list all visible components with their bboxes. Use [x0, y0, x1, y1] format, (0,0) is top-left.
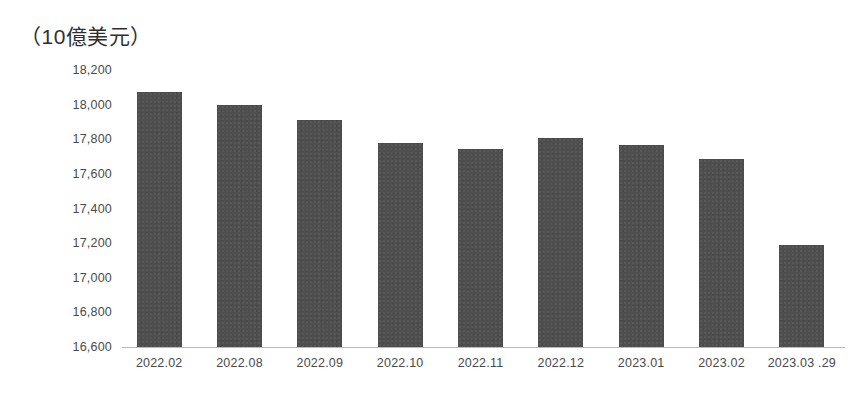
- bar: [538, 138, 583, 347]
- bar: [297, 120, 342, 347]
- bar: [378, 143, 423, 347]
- y-axis-tick-label: 17,800: [0, 133, 112, 146]
- bar-chart: （10億美元） 18,20018,00017,80017,60017,40017…: [0, 0, 850, 393]
- bar: [217, 105, 262, 347]
- x-axis-tick-label: 2023.03 .29: [752, 355, 850, 371]
- bar: [779, 245, 824, 347]
- y-axis-tick-label: 18,000: [0, 98, 112, 111]
- y-axis-tick-label: 17,400: [0, 202, 112, 215]
- x-axis-tick-labels: 2022.022022.082022.092022.102022.112022.…: [122, 355, 845, 375]
- y-axis-tick-label: 18,200: [0, 64, 112, 77]
- chart-title: （10億美元）: [20, 22, 152, 52]
- bar: [699, 159, 744, 347]
- bar: [137, 92, 182, 347]
- y-axis-tick-label: 16,800: [0, 306, 112, 319]
- bar: [619, 145, 664, 347]
- y-axis-tick-label: 17,600: [0, 168, 112, 181]
- x-axis-baseline: [122, 347, 845, 348]
- y-axis-tick-labels: 18,20018,00017,80017,60017,40017,20017,0…: [0, 70, 112, 348]
- bar: [458, 149, 503, 347]
- bars-layer: [122, 70, 845, 347]
- y-axis-tick-label: 17,000: [0, 272, 112, 285]
- y-axis-tick-label: 17,200: [0, 237, 112, 250]
- y-axis-tick-label: 16,600: [0, 341, 112, 354]
